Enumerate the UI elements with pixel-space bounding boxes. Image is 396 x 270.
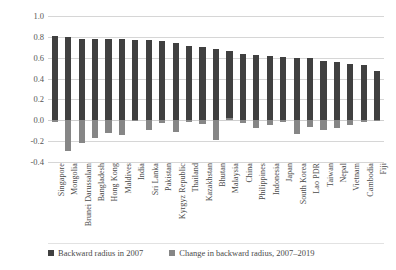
y-axis-tick-label: 0.0 [33, 116, 44, 125]
bar-series-backward-radius-2007 [334, 62, 340, 120]
bar-series-change-backward-radius [240, 120, 246, 123]
bar-slot [294, 16, 300, 162]
bar-slot [65, 16, 71, 162]
bar-series-backward-radius-2007 [79, 39, 85, 120]
bar-slot [159, 16, 165, 162]
bar-series-change-backward-radius [186, 120, 192, 122]
bar-series-backward-radius-2007 [92, 39, 98, 120]
x-axis-tick-label: Brunei Darussalam [85, 163, 93, 235]
x-axis-tick-label: Cambodia [367, 163, 375, 235]
bar-series-change-backward-radius [253, 120, 259, 127]
bar-series-backward-radius-2007 [173, 43, 179, 120]
x-axis-tick-label: Nepal [340, 163, 348, 235]
bar-series-change-backward-radius [159, 120, 165, 123]
bar-series-change-backward-radius [199, 120, 205, 124]
x-axis-tick-label: Bhutan [219, 163, 227, 235]
bar-series-change-backward-radius [92, 120, 98, 138]
bar-series-backward-radius-2007 [280, 57, 286, 121]
bar-series-backward-radius-2007 [267, 56, 273, 121]
bar-chart-figure: Backward Radius 1.00.80.60.40.20.0-0.2-0… [0, 0, 396, 270]
bar-series-backward-radius-2007 [132, 40, 138, 120]
y-axis-tick-label: -0.4 [31, 158, 44, 167]
bar-series-backward-radius-2007 [347, 64, 353, 120]
bar-series-backward-radius-2007 [186, 46, 192, 120]
y-axis-tick-label: -0.2 [31, 137, 44, 146]
bar-slot [334, 16, 340, 162]
x-axis-tick-label: Kyrgyz Republic [179, 163, 187, 235]
x-axis-tick-label: Sri Lanka [152, 163, 160, 235]
bar-series-backward-radius-2007 [294, 58, 300, 121]
x-axis-tick-label: Singapore [58, 163, 66, 235]
x-axis-tick-label: Thailand [192, 163, 200, 235]
bar-series-change-backward-radius [105, 120, 111, 133]
bar-series-change-backward-radius [294, 120, 300, 134]
bar-slot [253, 16, 259, 162]
bar-series-change-backward-radius [79, 120, 85, 143]
bar-series-change-backward-radius [226, 118, 232, 120]
bar-slot [267, 16, 273, 162]
x-axis-tick-label: Hong Kong [111, 163, 119, 235]
legend-item-change-backward-radius: Change in backward radius, 2007–2019 [169, 248, 314, 258]
bar-series-change-backward-radius [320, 120, 326, 129]
bar-series-backward-radius-2007 [361, 65, 367, 120]
legend-label-series-2: Change in backward radius, 2007–2019 [179, 248, 314, 258]
bar-series-backward-radius-2007 [307, 58, 313, 121]
bar-slot [320, 16, 326, 162]
x-axis-tick-label: Malaysia [232, 163, 240, 235]
bar-slot [307, 16, 313, 162]
bar-series-change-backward-radius [280, 120, 286, 122]
bar-slot [186, 16, 192, 162]
x-axis-tick-label: Maldives [125, 163, 133, 235]
legend-label-series-1: Backward radius in 2007 [58, 248, 143, 258]
bar-series-backward-radius-2007 [240, 54, 246, 121]
bar-series-backward-radius-2007 [199, 47, 205, 120]
y-axis-tick-label: 0.6 [33, 53, 44, 62]
legend-swatch-series-1 [48, 250, 54, 256]
bar-group [48, 16, 384, 162]
bar-slot [79, 16, 85, 162]
bar-slot [173, 16, 179, 162]
plot-area: 1.00.80.60.40.20.0-0.2-0.4 [48, 16, 384, 162]
bar-slot [199, 16, 205, 162]
x-axis-tick-label: Fiji [380, 163, 388, 235]
x-axis-tick-label: Kazakhstan [206, 163, 214, 235]
bar-slot [92, 16, 98, 162]
y-axis-tick-label: 1.0 [33, 12, 44, 21]
bar-series-change-backward-radius [132, 120, 138, 121]
bar-series-backward-radius-2007 [146, 40, 152, 120]
y-axis-tick-label: 0.4 [33, 74, 44, 83]
x-axis-tick-label: South Korea [300, 163, 308, 235]
bar-slot [132, 16, 138, 162]
bar-series-change-backward-radius [374, 120, 380, 121]
bar-series-backward-radius-2007 [374, 71, 380, 120]
bar-slot [52, 16, 58, 162]
bar-series-change-backward-radius [307, 120, 313, 126]
legend-item-backward-radius-2007: Backward radius in 2007 [48, 248, 143, 258]
bar-series-backward-radius-2007 [226, 51, 232, 120]
bar-slot [119, 16, 125, 162]
bar-slot [146, 16, 152, 162]
bar-slot [374, 16, 380, 162]
x-axis-tick-label: Japan [286, 163, 294, 235]
x-axis-tick-label: Mongolia [71, 163, 79, 235]
bar-series-change-backward-radius [65, 120, 71, 150]
x-axis-tick-label: China [246, 163, 254, 235]
bar-slot [280, 16, 286, 162]
bar-slot [361, 16, 367, 162]
bar-series-change-backward-radius [173, 120, 179, 131]
bar-series-change-backward-radius [267, 120, 273, 125]
bar-series-change-backward-radius [347, 120, 353, 125]
x-axis-tick-label: Indonesia [273, 163, 281, 235]
chart-legend: Backward radius in 2007 Change in backwa… [48, 243, 384, 259]
bar-slot [347, 16, 353, 162]
legend-swatch-series-2 [169, 250, 175, 256]
bar-series-backward-radius-2007 [52, 36, 58, 120]
bar-series-backward-radius-2007 [213, 49, 219, 120]
y-axis-tick-label: 0.2 [33, 95, 44, 104]
x-axis-tick-label: Vietnam [353, 163, 361, 235]
bar-series-change-backward-radius [146, 120, 152, 129]
bar-slot [240, 16, 246, 162]
bar-series-backward-radius-2007 [320, 61, 326, 120]
x-axis-tick-labels: SingaporeMongoliaBrunei DarussalamBangla… [48, 163, 384, 235]
y-axis-tick-label: 0.8 [33, 33, 44, 42]
